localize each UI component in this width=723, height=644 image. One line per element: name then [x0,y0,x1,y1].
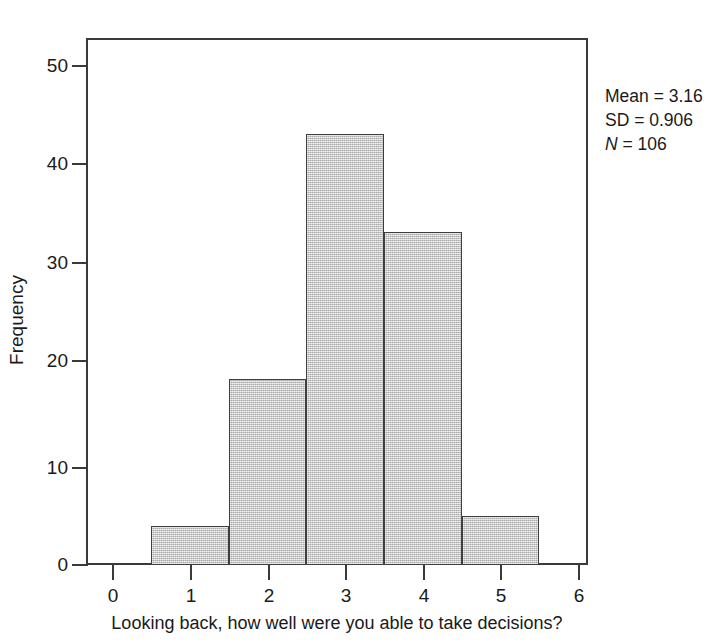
histogram-figure: 50 40 30 20 10 0 Frequency 0 1 2 3 4 [0,0,723,644]
stats-n: N = 106 [605,132,703,156]
y-axis-title: Frequency [7,240,27,400]
x-tick-label-4: 4 [404,585,444,607]
x-tick-label-5: 5 [481,585,521,607]
x-axis-title: Looking back, how well were you able to … [86,613,588,634]
x-tick-0 [112,565,114,580]
x-tick-label-3: 3 [326,585,366,607]
y-tick-label-40: 40 [6,154,68,173]
x-tick-2 [268,565,270,580]
y-tick-label-50: 50 [6,56,68,75]
stats-n-value: = 106 [618,134,667,154]
stats-mean: Mean = 3.16 [605,84,703,108]
stats-sd: SD = 0.906 [605,108,703,132]
x-tick-label-6: 6 [559,585,599,607]
x-tick-6 [578,565,580,580]
y-tick-label-0: 0 [6,555,68,574]
stats-annotation: Mean = 3.16 SD = 0.906 N = 106 [605,84,703,156]
x-tick-label-1: 1 [171,585,211,607]
x-tick-4 [423,565,425,580]
plot-area [86,38,588,565]
x-tick-label-0: 0 [93,585,133,607]
x-tick-label-2: 2 [249,585,289,607]
y-tick-label-10: 10 [6,458,68,477]
stats-n-symbol: N [605,134,618,154]
x-tick-1 [190,565,192,580]
x-tick-3 [345,565,347,580]
x-tick-5 [500,565,502,580]
